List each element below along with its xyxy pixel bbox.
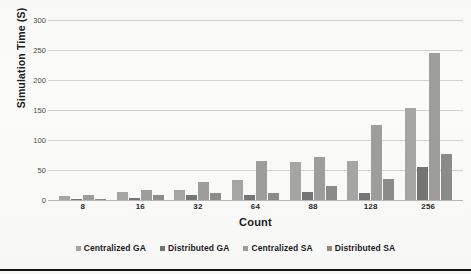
bar [302, 192, 313, 200]
chart-figure: Simulation Time (S) 050100150200250300 8… [0, 0, 471, 274]
bar [314, 157, 325, 200]
legend-item-1[interactable]: Distributed GA [160, 243, 229, 253]
y-tick-label-50: 50 [18, 166, 46, 175]
x-axis-title: Count [48, 216, 463, 228]
y-tick-label-300: 300 [18, 16, 46, 25]
y-tick-label-250: 250 [18, 46, 46, 55]
bar [129, 198, 140, 200]
x-tick-label-128: 128 [342, 202, 400, 216]
bar [441, 154, 452, 200]
bar [383, 179, 394, 200]
bar [59, 196, 70, 200]
bar [429, 53, 440, 200]
y-tick-label-200: 200 [18, 76, 46, 85]
bar [174, 190, 185, 200]
bar [359, 193, 370, 200]
bar-group-88 [284, 20, 342, 200]
x-tick-label-32: 32 [169, 202, 227, 216]
bar [256, 161, 267, 200]
bar [117, 192, 128, 200]
y-axis-tick-labels: 050100150200250300 [18, 20, 46, 200]
legend-label: Distributed SA [335, 243, 395, 253]
y-tick-label-150: 150 [18, 106, 46, 115]
chart-legend: Centralized GADistributed GACentralized … [0, 243, 471, 253]
legend-label: Distributed GA [168, 243, 229, 253]
plot-area [48, 20, 463, 200]
legend-label: Centralized GA [84, 243, 146, 253]
x-tick-label-8: 8 [54, 202, 112, 216]
bar [326, 186, 337, 200]
bar-group-128 [342, 20, 400, 200]
legend-swatch-icon [327, 246, 332, 251]
legend-item-0[interactable]: Centralized GA [76, 243, 146, 253]
bar [371, 125, 382, 200]
gridline-0 [48, 200, 463, 201]
bar [83, 195, 94, 200]
bar [405, 108, 416, 200]
bar [95, 199, 106, 200]
page-bottom-rule [0, 269, 471, 271]
legend-label: Centralized SA [251, 243, 312, 253]
bar [198, 182, 209, 200]
bar-group-8 [54, 20, 112, 200]
legend-swatch-icon [160, 246, 165, 251]
legend-item-3[interactable]: Distributed SA [327, 243, 395, 253]
legend-swatch-icon [243, 246, 248, 251]
y-tick-label-100: 100 [18, 136, 46, 145]
x-tick-label-16: 16 [112, 202, 170, 216]
bar [153, 195, 164, 200]
bar [71, 199, 82, 200]
bar [186, 195, 197, 200]
bar [347, 161, 358, 200]
x-axis-tick-labels: 816326488128256 [48, 202, 463, 216]
x-tick-label-256: 256 [399, 202, 457, 216]
legend-item-2[interactable]: Centralized SA [243, 243, 312, 253]
y-axis-title-wrapper: Simulation Time (S) [0, 0, 18, 220]
bar-group-16 [112, 20, 170, 200]
bar [268, 193, 279, 200]
bar-group-32 [169, 20, 227, 200]
x-tick-label-64: 64 [227, 202, 285, 216]
bar [141, 190, 152, 200]
bar [290, 162, 301, 200]
bar [244, 195, 255, 200]
x-tick-label-88: 88 [284, 202, 342, 216]
y-tick-label-0: 0 [18, 196, 46, 205]
bar [232, 180, 243, 200]
bar [417, 167, 428, 200]
legend-swatch-icon [76, 246, 81, 251]
bar-group-256 [399, 20, 457, 200]
bar-group-64 [227, 20, 285, 200]
bar-groups [48, 20, 463, 200]
bar [210, 193, 221, 200]
